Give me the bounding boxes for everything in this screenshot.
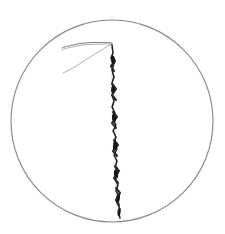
sketch-canvas — [0, 0, 225, 234]
sketch-figure — [0, 0, 225, 234]
